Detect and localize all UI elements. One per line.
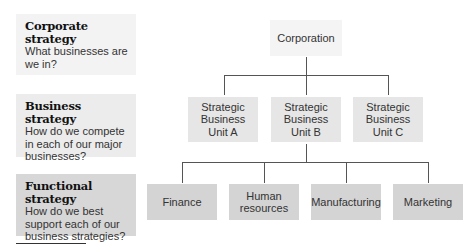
sbu-c-label: Strategic Business Unit C xyxy=(366,101,411,139)
connector-manufacturing xyxy=(346,162,347,183)
functional-strategy-box: Functional strategy How do we best suppo… xyxy=(16,174,136,236)
sbu-b-label: Strategic Business Unit B xyxy=(284,101,329,139)
corporation-label: Corporation xyxy=(277,32,334,45)
business-strategy-question: How do we compete in each of our major b… xyxy=(25,125,128,163)
corporate-strategy-box: Corporate strategy What businesses are w… xyxy=(16,14,136,75)
marketing-node: Marketing xyxy=(393,184,463,220)
connector-sbu-a xyxy=(224,75,225,95)
sbu-a-label: Strategic Business Unit A xyxy=(201,101,246,139)
connector-sbu-c xyxy=(388,75,389,95)
connector-marketing xyxy=(428,162,429,183)
corporate-strategy-question: What businesses are we in? xyxy=(25,45,128,70)
manufacturing-label: Manufacturing xyxy=(311,196,381,209)
connector-hr xyxy=(264,162,265,183)
business-strategy-box: Business strategy How do we compete in e… xyxy=(16,94,136,157)
business-strategy-title: Business strategy xyxy=(25,100,128,125)
connector-functions-horizontal xyxy=(182,162,429,163)
sbu-b-node: Strategic Business Unit B xyxy=(271,97,341,142)
connector-finance xyxy=(182,162,183,183)
finance-node: Finance xyxy=(147,184,217,220)
finance-label: Finance xyxy=(162,196,201,209)
functional-strategy-title: Functional strategy xyxy=(25,180,128,205)
human-resources-node: Human resources xyxy=(229,184,299,220)
functional-strategy-question: How do we best support each of our busin… xyxy=(25,205,128,243)
footnote-rule xyxy=(16,243,86,244)
manufacturing-node: Manufacturing xyxy=(311,184,381,220)
human-resources-label: Human resources xyxy=(240,190,288,215)
connector-sbu-b-down xyxy=(306,144,307,162)
corporation-node: Corporation xyxy=(270,20,342,56)
marketing-label: Marketing xyxy=(404,196,452,209)
connector-corp-down xyxy=(306,57,307,75)
connector-sbu-b xyxy=(306,75,307,95)
sbu-a-node: Strategic Business Unit A xyxy=(188,97,258,142)
corporate-strategy-title: Corporate strategy xyxy=(25,20,128,45)
sbu-c-node: Strategic Business Unit C xyxy=(353,97,423,142)
